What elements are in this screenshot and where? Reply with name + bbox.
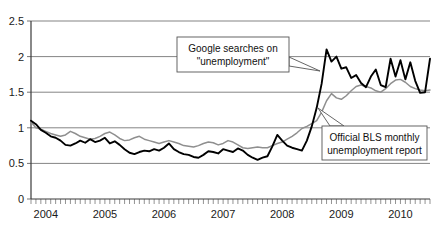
y-tick-label-2: 2 [18, 51, 24, 63]
x-tick-label-2009: 2009 [329, 208, 353, 220]
chart-background [0, 0, 433, 232]
y-tick-label-0: 0 [18, 193, 24, 205]
google-callout-line-1: Google searches on [188, 43, 278, 54]
bls-callout-line-1: Official BLS monthly [330, 132, 420, 143]
x-tick-label-2010: 2010 [388, 208, 412, 220]
x-tick-label-2006: 2006 [152, 208, 176, 220]
x-tick-label-2004: 2004 [34, 208, 58, 220]
bls-callout-line-2: unemployment report [327, 145, 422, 156]
x-tick-label-2007: 2007 [211, 208, 235, 220]
y-tick-label-1.5: 1.5 [9, 86, 24, 98]
y-tick-label-1: 1 [18, 122, 24, 134]
x-tick-label-2008: 2008 [270, 208, 294, 220]
chart-canvas: 00.511.522.5 200420052006200720082009201… [0, 0, 433, 232]
google-callout-line-2: "unemployment" [197, 56, 270, 67]
y-tick-label-2.5: 2.5 [9, 15, 24, 27]
unemployment-line-chart: 00.511.522.5 200420052006200720082009201… [0, 0, 433, 232]
y-tick-label-0.5: 0.5 [9, 157, 24, 169]
x-tick-label-2005: 2005 [93, 208, 117, 220]
